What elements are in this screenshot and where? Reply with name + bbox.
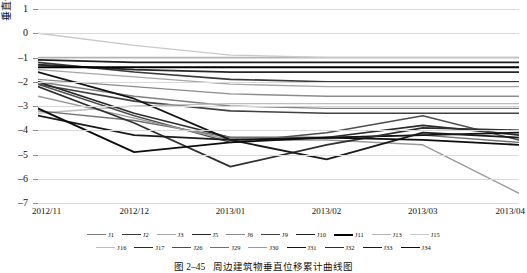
- series-line-j29: [38, 111, 519, 143]
- legend-label-j34: J34: [422, 244, 431, 251]
- vertical-displacement-chart: 垂直位移/mm 10–1–2–3–4–5–6–7 2012/112012/122…: [0, 0, 527, 273]
- gridline: [38, 33, 519, 34]
- legend-swatch-j26: [172, 247, 191, 249]
- legend-label-j6: J6: [247, 231, 253, 238]
- legend-swatch-j9: [261, 234, 280, 236]
- x-axis-tick-label: 2013/02: [297, 206, 357, 216]
- legend-label-j15: J15: [431, 231, 440, 238]
- legend-item-j34[interactable]: J34: [401, 244, 431, 251]
- legend-swatch-j29: [210, 247, 229, 248]
- figure-caption-text: 周边建筑物垂直位移累计曲线图: [213, 262, 353, 272]
- legend-item-j30[interactable]: J30: [248, 244, 278, 251]
- legend-swatch-j3: [157, 234, 176, 235]
- legend-item-j16[interactable]: J16: [96, 244, 126, 251]
- legend-item-j33[interactable]: J33: [363, 244, 393, 251]
- x-axis-tick-label: 2013/01: [200, 206, 260, 216]
- legend-item-j13[interactable]: J13: [372, 231, 402, 238]
- y-axis-tick-label: –5: [2, 150, 28, 160]
- legend-swatch-j5: [192, 234, 211, 236]
- y-axis-tick-label: –4: [2, 125, 28, 135]
- legend-swatch-j17: [134, 247, 153, 249]
- gridline: [38, 203, 519, 204]
- legend-label-j31: J31: [308, 244, 317, 251]
- x-axis-tick-label: 2013/04: [465, 206, 525, 216]
- legend-row-1: J1J2J3J5J6J9J10J11J13J15: [0, 228, 527, 241]
- legend-item-j17[interactable]: J17: [134, 244, 164, 251]
- figure-number: 图 2–45: [174, 262, 205, 272]
- legend-label-j9: J9: [282, 231, 288, 238]
- gridline: [38, 82, 519, 83]
- legend-swatch-j34: [401, 247, 420, 249]
- legend-label-j30: J30: [269, 244, 278, 251]
- legend-swatch-j6: [226, 234, 245, 235]
- legend-item-j3[interactable]: J3: [157, 231, 184, 238]
- gridline: [38, 106, 519, 107]
- legend-label-j13: J13: [393, 231, 402, 238]
- legend-label-j17: J17: [155, 244, 164, 251]
- y-axis-tick-label: 1: [2, 4, 28, 14]
- gridline: [38, 9, 519, 10]
- legend-swatch-j15: [410, 234, 429, 235]
- legend-label-j3: J3: [178, 231, 184, 238]
- x-axis-tick-label: 2012/11: [32, 206, 92, 216]
- series-line-j5: [38, 65, 519, 72]
- legend-swatch-j30: [248, 247, 267, 248]
- gridline: [38, 130, 519, 131]
- legend-swatch-j16: [96, 247, 115, 248]
- legend-label-j1: J1: [108, 231, 114, 238]
- y-axis-tick-label: –1: [2, 53, 28, 63]
- legend-label-j2: J2: [143, 231, 149, 238]
- legend-swatch-j33: [363, 247, 382, 249]
- y-axis-tick-label: –3: [2, 101, 28, 111]
- legend-swatch-j31: [287, 247, 306, 249]
- legend-item-j26[interactable]: J26: [172, 244, 202, 251]
- legend-label-j11: J11: [355, 231, 364, 238]
- legend-swatch-j2: [122, 234, 141, 236]
- series-line-j10: [38, 60, 519, 62]
- legend-swatch-j32: [325, 247, 344, 249]
- legend-item-j2[interactable]: J2: [122, 231, 149, 238]
- legend-item-j15[interactable]: J15: [410, 231, 440, 238]
- legend-item-j5[interactable]: J5: [192, 231, 219, 238]
- legend-swatch-j10: [296, 234, 315, 236]
- y-axis-tick-label: –7: [2, 198, 28, 208]
- x-axis-tick-label: 2012/12: [104, 206, 164, 216]
- gridline: [38, 58, 519, 59]
- legend-row-2: J16J17J26J29J30J31J32J33J34: [0, 241, 527, 254]
- legend-item-j10[interactable]: J10: [296, 231, 326, 238]
- y-axis-tick-label: –6: [2, 174, 28, 184]
- chart-legend: J1J2J3J5J6J9J10J11J13J15 J16J17J26J29J30…: [0, 228, 527, 254]
- legend-item-j29[interactable]: J29: [210, 244, 240, 251]
- series-line-j15: [38, 33, 519, 57]
- legend-swatch-j13: [372, 234, 391, 235]
- legend-label-j10: J10: [317, 231, 326, 238]
- y-axis-tick-label: –2: [2, 77, 28, 87]
- legend-swatch-j1: [87, 234, 106, 235]
- y-axis-tick-label: 0: [2, 28, 28, 38]
- legend-label-j32: J32: [346, 244, 355, 251]
- legend-label-j29: J29: [231, 244, 240, 251]
- legend-label-j5: J5: [213, 231, 219, 238]
- legend-item-j9[interactable]: J9: [261, 231, 288, 238]
- figure-caption: 图 2–45周边建筑物垂直位移累计曲线图: [0, 259, 527, 273]
- legend-label-j16: J16: [117, 244, 126, 251]
- legend-item-j1[interactable]: J1: [87, 231, 114, 238]
- x-axis-tick-label: 2013/03: [393, 206, 453, 216]
- legend-item-j32[interactable]: J32: [325, 244, 355, 251]
- legend-label-j26: J26: [193, 244, 202, 251]
- legend-item-j31[interactable]: J31: [287, 244, 317, 251]
- gridline: [38, 155, 519, 156]
- legend-item-j11[interactable]: J11: [334, 231, 364, 238]
- gridline: [38, 179, 519, 180]
- legend-swatch-j11: [334, 234, 353, 236]
- legend-item-j6[interactable]: J6: [226, 231, 253, 238]
- legend-label-j33: J33: [384, 244, 393, 251]
- plot-area: [38, 9, 519, 203]
